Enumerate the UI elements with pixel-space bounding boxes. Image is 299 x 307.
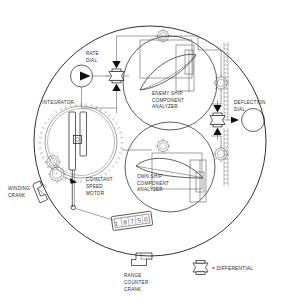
integrator-carriage-right <box>80 112 87 156</box>
svg-text:ENEMY SHIP: ENEMY SHIP <box>152 91 183 96</box>
svg-text:ANALYZER: ANALYZER <box>137 187 163 192</box>
legend-differential: = DIFFERENTIAL <box>193 261 253 275</box>
differential-left-collar-top <box>112 69 121 72</box>
differential-right-arrow-up <box>213 128 221 136</box>
svg-text:OWN SHIP: OWN SHIP <box>137 174 162 179</box>
range-counter-crank-label: RANGE COUNTER CRANK <box>124 273 149 292</box>
integrator-roller-hub <box>76 138 80 142</box>
range-counter-digit-0: 1 <box>114 220 119 226</box>
winding-crank[interactable] <box>33 181 48 203</box>
enemy-analyzer-right-gear <box>213 75 229 91</box>
svg-text:CRANK: CRANK <box>8 193 26 198</box>
integrator-gear-lower <box>48 165 67 184</box>
svg-text:SPEED: SPEED <box>86 184 103 189</box>
range-counter-shaft <box>76 209 114 221</box>
svg-text:COUNTER: COUNTER <box>124 280 149 285</box>
range-counter[interactable]: 1 8 7 5 0 <box>111 211 153 230</box>
own-analyzer-right-gear <box>213 146 229 162</box>
range-counter-digit-4: 0 <box>144 216 149 222</box>
svg-text:ANALYZER: ANALYZER <box>152 104 178 109</box>
deflection-dial[interactable] <box>242 109 265 132</box>
svg-text:WINDING: WINDING <box>8 186 30 191</box>
own-analyzer-frame-b <box>190 160 206 202</box>
svg-text:DIAL: DIAL <box>234 107 245 112</box>
range-counter-digit-3: 5 <box>137 217 142 223</box>
differential-left[interactable] <box>106 49 129 113</box>
differential-right-out-arrow <box>231 117 239 123</box>
svg-text:MOTOR: MOTOR <box>86 191 105 196</box>
svg-text:RATE: RATE <box>86 51 99 56</box>
legend-differential-text: = DIFFERENTIAL <box>212 266 253 271</box>
integrator-label: INTEGRATOR <box>42 100 75 105</box>
differential-right-collar-top <box>213 113 222 116</box>
own-analyzer-label: OWN SHIP COMPONENT ANALYZER <box>137 174 169 192</box>
range-counter-digit-1: 8 <box>123 219 128 225</box>
legend-differential-symbol <box>193 263 208 272</box>
winding-crank-label: WINDING CRANK <box>8 186 30 198</box>
rate-dial-label: RATE DIAL <box>86 51 99 63</box>
diagram-canvas: INTEGRATOR WINDING CRANK CONSTANT SPEED … <box>0 0 299 307</box>
own-analyzer-housing <box>125 122 215 212</box>
own-analyzer-top-gear <box>156 139 171 154</box>
svg-text:DIAL: DIAL <box>86 58 97 63</box>
enemy-analyzer-cam-inner <box>140 55 196 90</box>
enemy-analyzer-label: ENEMY SHIP COMPONENT ANALYZER <box>152 91 184 109</box>
svg-text:CONSTANT: CONSTANT <box>86 177 113 182</box>
integrator-carriage-left <box>69 112 76 170</box>
rangekeeper-schematic: INTEGRATOR WINDING CRANK CONSTANT SPEED … <box>0 0 299 307</box>
differential-left-arrow-in <box>112 61 120 69</box>
enemy-analyzer-frame-a <box>140 40 192 78</box>
differential-right-arrow-in <box>213 105 221 113</box>
differential-right-collar-bot <box>213 124 222 127</box>
constant-speed-motor-label: CONSTANT SPEED MOTOR <box>86 177 113 196</box>
own-ship-component-analyzer[interactable] <box>122 122 229 212</box>
differential-right-body <box>210 116 225 125</box>
svg-text:CRANK: CRANK <box>124 287 142 292</box>
differential-left-collar-bot <box>112 80 121 83</box>
enemy-analyzer-cam <box>140 54 196 90</box>
svg-text:DEFLECTION: DEFLECTION <box>234 100 266 105</box>
integrator-shaft-joint <box>71 205 75 209</box>
differential-left-body <box>109 72 124 81</box>
svg-text:INTEGRATOR: INTEGRATOR <box>42 100 75 105</box>
integrator[interactable] <box>38 103 123 210</box>
svg-text:COMPONENT: COMPONENT <box>137 181 169 186</box>
own-analyzer-to-diff <box>211 136 221 148</box>
svg-text:COMPONENT: COMPONENT <box>152 98 184 103</box>
svg-text:RANGE: RANGE <box>124 273 142 278</box>
range-counter-digit-2: 7 <box>130 218 135 224</box>
rate-dial[interactable] <box>71 65 114 108</box>
rate-dial-pointer <box>80 72 91 81</box>
integrator-gear-upper <box>45 154 62 171</box>
differential-left-arrow-up <box>112 84 120 92</box>
deflection-dial-face <box>242 109 265 132</box>
